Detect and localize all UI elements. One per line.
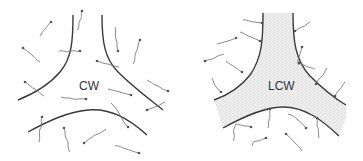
diagram-canvas: CW LCW — [0, 0, 363, 161]
cell-wall-top-right — [102, 15, 163, 110]
panel-cw: CW — [18, 10, 169, 155]
lignified-region — [214, 13, 346, 136]
cell-wall-bottom — [28, 110, 147, 135]
label-lcw: LCW — [268, 79, 295, 93]
label-cw: CW — [79, 79, 100, 93]
panel-lcw: LCW — [204, 13, 346, 151]
